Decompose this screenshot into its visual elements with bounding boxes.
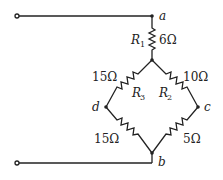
node-d-label: d [92,100,100,114]
r2-value: 10Ω [183,70,208,84]
junction-dot [150,58,154,62]
node-b-dot [150,151,154,155]
terminal-top [15,14,19,18]
r3-value: 15Ω [92,70,117,84]
circuit-diagram: a b c d R 1 6Ω 15Ω R 3 10Ω R 2 15Ω 5Ω [0,0,223,180]
resistor-db [106,107,152,153]
terminal-bottom [15,161,19,165]
node-a-label: a [159,9,166,23]
r1-sub: 1 [140,40,145,49]
resistor-r1 [149,16,155,60]
node-c-label: c [204,100,211,114]
r-cb-value: 5Ω [183,132,201,146]
r2-sub: 2 [167,93,172,102]
r3-sub: 3 [140,93,145,102]
r-db-value: 15Ω [94,132,119,146]
node-c-dot [196,105,200,109]
r1-name: R [130,33,140,47]
node-b-label: b [158,155,166,169]
r1-value: 6Ω [159,33,177,47]
node-a-dot [150,14,154,18]
node-d-dot [104,105,108,109]
resistor-cb [152,107,198,153]
